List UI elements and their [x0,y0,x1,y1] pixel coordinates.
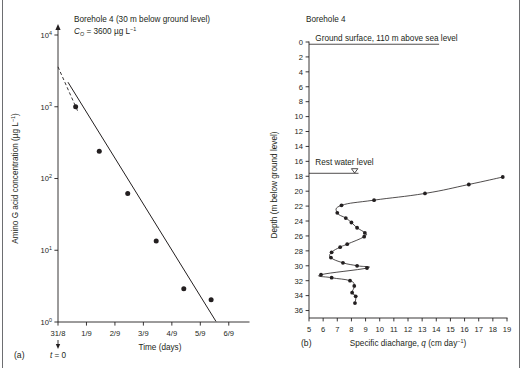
data-point [154,238,159,243]
svg-text:12: 12 [404,325,412,334]
svg-text:9: 9 [363,325,367,334]
svg-text:100: 100 [41,317,52,327]
discharge-profile-curve [318,177,502,303]
water-table-icon [351,169,357,173]
svg-text:34: 34 [295,291,303,300]
svg-text:18: 18 [489,325,497,334]
svg-text:24: 24 [295,217,303,226]
svg-text:3/9: 3/9 [138,329,149,338]
svg-text:Depth (m below ground level): Depth (m below ground level) [270,131,279,238]
svg-text:102: 102 [41,173,52,183]
svg-text:6/9: 6/9 [223,329,234,338]
data-point [423,192,427,196]
data-point [335,211,339,215]
data-point [350,221,354,225]
svg-text:10: 10 [295,112,303,121]
svg-text:26: 26 [295,232,303,241]
svg-text:13: 13 [418,325,426,334]
svg-text:Amino G acid concentration (µg: Amino G acid concentration (µg L−1) [10,113,20,244]
data-point [372,198,376,202]
svg-text:6: 6 [299,83,303,92]
svg-text:104: 104 [41,30,52,40]
svg-text:30: 30 [295,262,303,271]
svg-text:2: 2 [299,53,303,62]
data-point [348,279,352,283]
data-point [501,175,505,179]
data-point [362,235,366,239]
figure-container: 10010110210310431/81/92/93/94/95/96/9Bor… [0,0,523,368]
data-point [344,216,348,220]
svg-text:28: 28 [295,247,303,256]
svg-text:22: 22 [295,202,303,211]
svg-text:4/9: 4/9 [167,329,178,338]
data-point [363,231,367,235]
svg-text:12: 12 [295,127,303,136]
data-point [365,266,369,270]
svg-text:(a): (a) [14,350,25,360]
data-point [330,250,334,254]
svg-text:Borehole 4 (30 m below ground: Borehole 4 (30 m below ground level) [74,15,210,24]
svg-text:Rest water level: Rest water level [315,158,373,167]
svg-text:31/8: 31/8 [51,329,66,338]
data-point [355,226,359,230]
svg-text:20: 20 [295,187,303,196]
svg-text:Time (days): Time (days) [139,343,182,352]
svg-text:36: 36 [295,306,303,315]
svg-text:8: 8 [299,97,303,106]
svg-text:0: 0 [299,38,303,47]
svg-text:(b): (b) [301,338,312,348]
svg-text:18: 18 [295,172,303,181]
svg-text:Specific diacharge, q (cm day−: Specific diacharge, q (cm day−1) [350,338,467,348]
data-point [345,242,349,246]
svg-text:103: 103 [41,101,52,111]
svg-text:Ground surface, 110 m above se: Ground surface, 110 m above sea level [315,34,457,43]
panel-b-chart: 0246810121416182022242628303234365678910… [261,0,523,368]
svg-text:16: 16 [460,325,468,334]
svg-text:11: 11 [390,325,398,334]
svg-text:t = 0: t = 0 [50,351,67,360]
svg-text:32: 32 [295,277,303,286]
data-point [181,286,186,291]
data-point [340,203,344,207]
data-point [353,301,357,305]
data-point [341,261,345,265]
panel-a-chart: 10010110210310431/81/92/93/94/95/96/9Bor… [0,0,262,368]
data-point [125,191,130,196]
data-point [467,183,471,187]
svg-text:CO = 3600 µg L−1: CO = 3600 µg L−1 [74,26,136,38]
svg-text:2/9: 2/9 [110,329,121,338]
svg-text:14: 14 [432,325,440,334]
data-point [350,291,354,295]
svg-text:7: 7 [335,325,339,334]
data-point [319,273,323,277]
svg-text:19: 19 [503,325,511,334]
data-point [354,294,358,298]
svg-text:15: 15 [446,325,454,334]
data-point [73,104,78,109]
svg-text:Borehole 4: Borehole 4 [306,15,346,24]
svg-text:1/9: 1/9 [81,329,92,338]
data-point [338,245,342,249]
data-point [330,276,334,280]
svg-text:6: 6 [321,325,325,334]
data-point [329,256,333,260]
svg-text:5/9: 5/9 [195,329,206,338]
data-point [352,284,356,288]
data-point [97,149,102,154]
svg-text:10: 10 [375,325,383,334]
svg-text:16: 16 [295,157,303,166]
svg-text:5: 5 [307,325,311,334]
svg-text:101: 101 [41,245,52,255]
svg-text:17: 17 [474,325,482,334]
data-point [209,297,214,302]
svg-text:14: 14 [295,142,303,151]
data-point [355,264,359,268]
svg-text:8: 8 [349,325,353,334]
svg-text:4: 4 [299,68,303,77]
